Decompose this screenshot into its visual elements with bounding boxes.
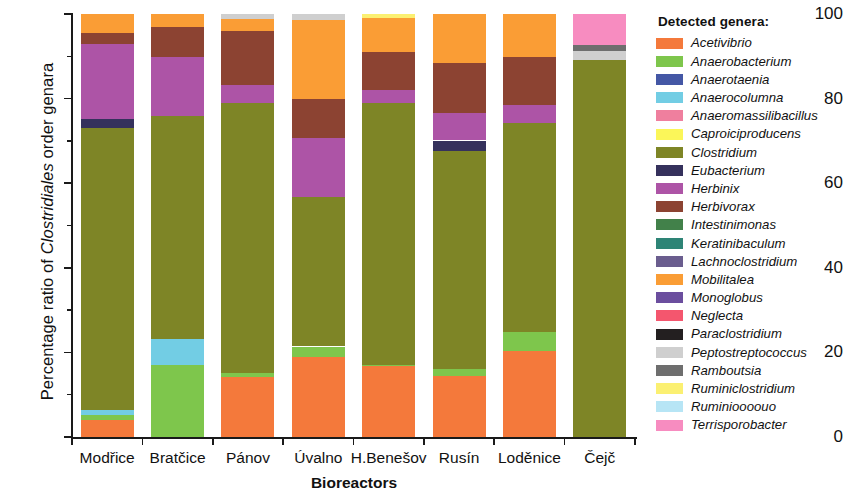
bar-segment-mobilitalea[interactable] xyxy=(503,14,556,57)
legend-swatch-ruminiclostridium xyxy=(656,383,683,394)
bar-segment-anaerobacterium[interactable] xyxy=(362,365,415,366)
legend-item-ruminioooouo[interactable]: Ruminioooouo xyxy=(656,398,841,416)
legend-item-terrisporobacter[interactable]: Terrisporobacter xyxy=(656,416,841,434)
bar-segment-herbivorax[interactable] xyxy=(433,63,486,114)
bar-segment-herbinix[interactable] xyxy=(292,138,345,197)
legend-item-acetivibrio[interactable]: Acetivibrio xyxy=(656,34,841,52)
bar-segment-ramboutsia[interactable] xyxy=(573,45,626,51)
legend-item-herbivorax[interactable]: Herbivorax xyxy=(656,198,841,216)
bar-segment-mobilitalea[interactable] xyxy=(81,14,134,33)
bar-segment-acetivibrio[interactable] xyxy=(503,351,556,437)
bar-segment-acetivibrio[interactable] xyxy=(81,420,134,437)
bar-segment-herbinix[interactable] xyxy=(362,90,415,103)
legend-item-anaerobacterium[interactable]: Anaerobacterium xyxy=(656,52,841,70)
x-tick xyxy=(634,438,636,445)
bar-segment-peptostreptococcus[interactable] xyxy=(221,14,274,19)
bar-segment-anaerobacterium[interactable] xyxy=(151,365,204,437)
x-tick xyxy=(142,438,144,445)
bar--ej-[interactable] xyxy=(573,14,626,437)
legend-item-herbinix[interactable]: Herbinix xyxy=(656,180,841,198)
bar-segment-clostridium[interactable] xyxy=(151,116,204,340)
bar-segment-anaerobacterium[interactable] xyxy=(433,369,486,376)
legend-swatch-clostridium xyxy=(656,147,683,158)
bar-segment-anaerobacterium[interactable] xyxy=(503,332,556,351)
bar-segment-herbivorax[interactable] xyxy=(81,33,134,44)
legend-item-anaerotaenia[interactable]: Anaerotaenia xyxy=(656,70,841,88)
legend-swatch-monoglobus xyxy=(656,292,683,303)
bar-segment-clostridium[interactable] xyxy=(221,103,274,373)
legend-item-anaerocolumna[interactable]: Anaerocolumna xyxy=(656,89,841,107)
bar-segment-anaerocolumna[interactable] xyxy=(81,410,134,416)
legend-label-ruminiclostridium: Ruminiclostridium xyxy=(691,382,795,395)
bar-segment-acetivibrio[interactable] xyxy=(362,366,415,437)
x-tick-label--ej-: Čejč xyxy=(584,449,615,467)
x-tick xyxy=(423,438,425,445)
legend-label-acetivibrio: Acetivibrio xyxy=(691,36,752,49)
y-axis-title: Percentage ratio of Clostridiales order … xyxy=(38,17,57,447)
x-tick-label-p-nov: Pánov xyxy=(226,449,270,467)
bar-lod-nice[interactable] xyxy=(503,14,556,437)
bar-segment-herbinix[interactable] xyxy=(221,85,274,104)
bar-segment-herbinix[interactable] xyxy=(151,57,204,115)
bar--valno[interactable] xyxy=(292,14,345,437)
legend-item-mobilitalea[interactable]: Mobilitalea xyxy=(656,270,841,288)
legend-item-peptostreptococcus[interactable]: Peptostreptococcus xyxy=(656,343,841,361)
bar-segment-peptostreptococcus[interactable] xyxy=(573,51,626,60)
bar-segment-herbinix[interactable] xyxy=(503,105,556,122)
bar-segment-anaerobacterium[interactable] xyxy=(81,415,134,420)
bar-segment-mobilitalea[interactable] xyxy=(221,19,274,32)
bar-rus-n[interactable] xyxy=(433,14,486,437)
bar-segment-herbinix[interactable] xyxy=(433,113,486,140)
legend-label-intestinimonas: Intestinimonas xyxy=(691,218,776,231)
legend-item-lachnoclostridium[interactable]: Lachnoclostridium xyxy=(656,252,841,270)
legend-item-keratinibaculum[interactable]: Keratinibaculum xyxy=(656,234,841,252)
x-tick xyxy=(212,438,214,445)
bar-segment-mobilitalea[interactable] xyxy=(362,18,415,51)
legend-item-anaeromassilibacillus[interactable]: Anaeromassilibacillus xyxy=(656,107,841,125)
x-tick xyxy=(282,438,284,445)
bar-segment-clostridium[interactable] xyxy=(81,128,134,409)
bar-segment-eubacterium[interactable] xyxy=(81,119,134,128)
bar-segment-anaerobacterium[interactable] xyxy=(221,373,274,377)
bar-segment-herbivorax[interactable] xyxy=(503,57,556,106)
bar-segment-clostridium[interactable] xyxy=(362,103,415,365)
bar-segment-herbinix[interactable] xyxy=(81,44,134,120)
bar-segment-eubacterium[interactable] xyxy=(433,141,486,151)
legend-item-monoglobus[interactable]: Monoglobus xyxy=(656,289,841,307)
legend-item-eubacterium[interactable]: Eubacterium xyxy=(656,161,841,179)
bar-brat-ice[interactable] xyxy=(151,14,204,437)
legend-swatch-herbinix xyxy=(656,183,683,194)
legend-item-ramboutsia[interactable]: Ramboutsia xyxy=(656,361,841,379)
bar-segment-herbivorax[interactable] xyxy=(221,31,274,84)
bar-p-nov[interactable] xyxy=(221,14,274,437)
bar-mod-ice[interactable] xyxy=(81,14,134,437)
legend-item-clostridium[interactable]: Clostridium xyxy=(656,143,841,161)
bar-segment-mobilitalea[interactable] xyxy=(151,14,204,27)
legend-item-neglecta[interactable]: Neglecta xyxy=(656,307,841,325)
y-tick-major xyxy=(64,352,72,354)
legend-swatch-terrisporobacter xyxy=(656,420,683,431)
bar-segment-herbivorax[interactable] xyxy=(292,99,345,137)
bar-segment-ruminiclostridium[interactable] xyxy=(362,14,415,18)
bar-segment-acetivibrio[interactable] xyxy=(221,377,274,437)
bar-segment-clostridium[interactable] xyxy=(573,60,626,437)
bar-segment-mobilitalea[interactable] xyxy=(292,20,345,100)
bar-segment-peptostreptococcus[interactable] xyxy=(292,14,345,19)
legend-item-paraclostridium[interactable]: Paraclostridium xyxy=(656,325,841,343)
bar-segment-anaerocolumna[interactable] xyxy=(151,339,204,365)
legend-item-intestinimonas[interactable]: Intestinimonas xyxy=(656,216,841,234)
legend-label-mobilitalea: Mobilitalea xyxy=(691,273,754,286)
bar-segment-clostridium[interactable] xyxy=(503,123,556,332)
bar-segment-herbivorax[interactable] xyxy=(362,52,415,90)
bar-segment-clostridium[interactable] xyxy=(433,151,486,370)
bar-segment-anaerobacterium[interactable] xyxy=(292,347,345,357)
bar-segment-acetivibrio[interactable] xyxy=(292,357,345,437)
bar-segment-clostridium[interactable] xyxy=(292,197,345,347)
bar-h-bene-ov[interactable] xyxy=(362,14,415,437)
legend-item-ruminiclostridium[interactable]: Ruminiclostridium xyxy=(656,380,841,398)
bar-segment-terrisporobacter[interactable] xyxy=(573,14,626,45)
legend-item-caproiciproducens[interactable]: Caproiciproducens xyxy=(656,125,841,143)
bar-segment-herbivorax[interactable] xyxy=(151,27,204,57)
bar-segment-acetivibrio[interactable] xyxy=(433,376,486,437)
bar-segment-mobilitalea[interactable] xyxy=(433,14,486,63)
